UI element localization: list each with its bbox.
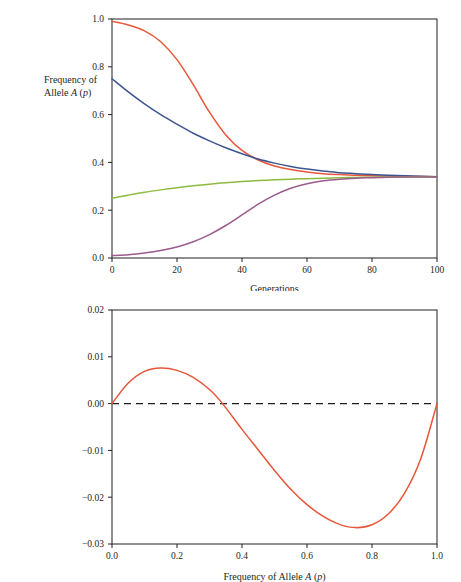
x-axis-tick-label: 0.2: [171, 551, 183, 561]
data-series-line: [112, 79, 437, 177]
data-series-line: [112, 177, 437, 256]
x-axis-tick-label: 0.0: [106, 551, 118, 561]
x-axis-tick-label: 0.6: [301, 551, 313, 561]
x-axis-tick-label: 100: [430, 265, 445, 275]
y-axis-tick-label: 0.6: [92, 110, 104, 120]
panel-allele-frequency-over-time: Frequency of Allele A (p) 0204060801000.…: [0, 0, 461, 291]
x-axis-tick-label: 0.4: [236, 551, 248, 561]
y-axis-tick-label: −0.01: [82, 446, 104, 456]
x-axis-title-top: Generations: [250, 283, 298, 291]
plot-frame: [112, 19, 437, 258]
y-axis-tick-label: 0.8: [92, 62, 104, 72]
y-axis-tick-label: −0.03: [82, 539, 104, 549]
x-axis-title-bottom: Frequency of Allele A (p): [223, 571, 325, 582]
y-axis-tick-label: 0.4: [92, 158, 104, 168]
panel-delta-p-versus-p: Change in Frequency of Allele A (Δp) 0.0…: [0, 291, 461, 582]
data-series-line: [112, 21, 437, 176]
y-axis-tick-label: −0.02: [82, 493, 104, 503]
y-axis-tick-label: 0.01: [87, 352, 104, 362]
x-axis-tick-label: 1.0: [431, 551, 443, 561]
x-axis-tick-label: 20: [172, 265, 182, 275]
genetics-figure: Frequency of Allele A (p) 0204060801000.…: [0, 0, 461, 582]
y-axis-tick-label: 0.00: [87, 399, 104, 409]
plot-area-bottom: 0.00.20.40.60.81.0−0.03−0.02−0.010.000.0…: [0, 291, 461, 582]
plot-frame: [112, 310, 437, 544]
y-axis-tick-label: 0.2: [92, 206, 104, 216]
x-axis-tick-label: 80: [367, 265, 377, 275]
x-axis-tick-label: 0: [110, 265, 115, 275]
x-axis-tick-label: 0.8: [366, 551, 378, 561]
x-axis-tick-label: 60: [302, 265, 312, 275]
y-axis-tick-label: 0.0: [92, 253, 104, 263]
plot-area-top: 0204060801000.00.20.40.60.81.0Generation…: [0, 0, 461, 291]
y-axis-tick-label: 0.02: [87, 305, 104, 315]
data-series-line: [112, 368, 437, 528]
y-axis-tick-label: 1.0: [92, 14, 104, 24]
x-axis-tick-label: 40: [237, 265, 247, 275]
